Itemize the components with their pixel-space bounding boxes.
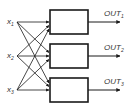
edge-x3-to-block-2 <box>17 60 49 91</box>
input-label-3: x3 <box>6 85 14 95</box>
block-2 <box>50 44 88 68</box>
edge-x3-to-block-1 <box>17 29 49 90</box>
output-label-2: OUT2 <box>104 43 124 53</box>
input-label-2: x2 <box>6 51 14 61</box>
edge-x1-to-block-3 <box>17 22 49 83</box>
block-diagram: x1 x2 x3 OUT1 OUT2 OUT3 <box>0 0 132 109</box>
output-label-1: OUT1 <box>104 9 124 19</box>
blocks <box>50 10 88 102</box>
connections <box>17 22 49 90</box>
edge-x1-to-block-2 <box>17 22 49 53</box>
block-1 <box>50 10 88 34</box>
edge-x2-to-block-3 <box>17 56 49 87</box>
output-label-3: OUT3 <box>104 77 124 87</box>
input-labels: x1 x2 x3 <box>6 17 14 95</box>
edge-x2-to-block-1 <box>17 26 49 57</box>
output-labels: OUT1 OUT2 OUT3 <box>104 9 124 87</box>
input-label-1: x1 <box>6 17 14 27</box>
block-3 <box>50 78 88 102</box>
